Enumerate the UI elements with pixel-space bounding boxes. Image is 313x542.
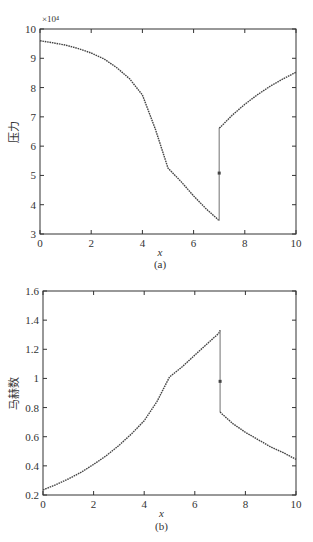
- data-line-pre-shock: [43, 330, 220, 490]
- figure-canvas: 0246810345678910×10⁴x(a)压力 02468100.20.4…: [0, 0, 313, 542]
- y-tick-label: 0.2: [25, 489, 39, 501]
- x-tick-label: 2: [91, 498, 97, 510]
- y-tick-label: 0.4: [25, 460, 39, 472]
- x-tick-label: 2: [88, 237, 94, 249]
- x-tick-label: 0: [37, 237, 43, 249]
- y-tick-label: 9: [31, 52, 37, 64]
- x-tick-label: 8: [243, 498, 249, 510]
- x-tick-label: 10: [291, 498, 303, 510]
- figure: 0246810345678910×10⁴x(a)压力 02468100.20.4…: [0, 0, 313, 542]
- y-tick-label: 1.4: [25, 314, 39, 326]
- x-axis-label: x: [157, 246, 163, 258]
- shock-marker: [219, 380, 222, 383]
- shock-marker: [218, 172, 221, 175]
- x-tick-label: 4: [140, 237, 146, 249]
- data-line-post-shock: [220, 412, 296, 459]
- panel-label: (a): [154, 258, 167, 271]
- y-tick-label: 1.2: [25, 343, 39, 355]
- x-axis-label: x: [158, 507, 164, 519]
- x-tick-label: 6: [191, 237, 197, 249]
- x-tick-label: 8: [242, 237, 248, 249]
- panel-label: (b): [155, 520, 168, 533]
- pressure-chart: 0246810345678910×10⁴x(a)压力: [8, 14, 302, 271]
- y-tick-label: 8: [31, 82, 37, 94]
- y-tick-label: 5: [31, 169, 37, 181]
- data-line-post-shock: [219, 72, 296, 128]
- y-tick-label: 6: [31, 140, 37, 152]
- y-tick-label: 7: [31, 111, 37, 123]
- x-tick-label: 6: [192, 498, 198, 510]
- x-tick-label: 10: [291, 237, 303, 249]
- mach-number-chart: 02468100.20.40.60.811.21.41.6x(b)马赫数: [8, 285, 302, 533]
- y-axis-label: 马赫数: [8, 377, 20, 410]
- plot-frame: [43, 291, 296, 495]
- y-tick-label: 3: [31, 228, 37, 240]
- x-tick-label: 4: [141, 498, 147, 510]
- y-tick-label: 1.6: [25, 285, 39, 297]
- x-tick-label: 0: [40, 498, 46, 510]
- plot-frame: [40, 29, 296, 234]
- y-tick-label: 4: [31, 199, 37, 211]
- y-tick-label: 1: [34, 372, 40, 384]
- y-axis-label: 压力: [8, 121, 20, 143]
- data-line-pre-shock: [40, 41, 219, 221]
- y-tick-label: 10: [25, 23, 37, 35]
- y-tick-label: 0.8: [25, 402, 39, 414]
- y-multiplier: ×10⁴: [42, 14, 59, 24]
- y-tick-label: 0.6: [25, 431, 39, 443]
